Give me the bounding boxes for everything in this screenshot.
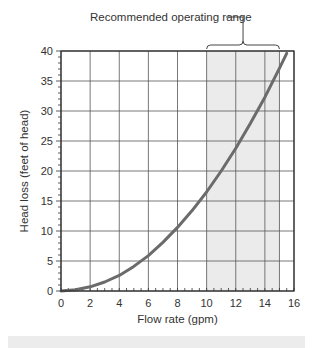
x-tick-label: 8 xyxy=(174,297,180,309)
y-tick-label: 25 xyxy=(41,135,53,147)
y-tick-label: 15 xyxy=(41,195,53,207)
range-annotation: Recommended operating range xyxy=(90,11,252,23)
y-tick-label: 35 xyxy=(41,75,53,87)
x-tick-label: 14 xyxy=(259,297,271,309)
x-tick-labels: 0246810121416 xyxy=(58,297,300,309)
y-axis-title: Head loss (feet of head) xyxy=(18,109,30,232)
y-tick-label: 0 xyxy=(47,285,53,297)
x-axis-title: Flow rate (gpm) xyxy=(137,313,218,325)
y-tick-label: 30 xyxy=(41,105,53,117)
y-tick-label: 10 xyxy=(41,225,53,237)
x-tick-label: 6 xyxy=(145,297,151,309)
x-tick-label: 16 xyxy=(288,297,300,309)
x-tick-label: 12 xyxy=(230,297,242,309)
y-tick-label: 5 xyxy=(47,255,53,267)
head-loss-chart: 0246810121416 0510152025303540 Recommend… xyxy=(0,0,313,348)
x-tick-label: 10 xyxy=(201,297,213,309)
y-tick-label: 40 xyxy=(41,45,53,57)
y-tick-labels: 0510152025303540 xyxy=(41,45,53,297)
x-tick-label: 0 xyxy=(58,297,64,309)
y-tick-label: 20 xyxy=(41,165,53,177)
x-tick-label: 4 xyxy=(116,297,122,309)
x-tick-label: 2 xyxy=(87,297,93,309)
bottom-band xyxy=(8,336,305,348)
